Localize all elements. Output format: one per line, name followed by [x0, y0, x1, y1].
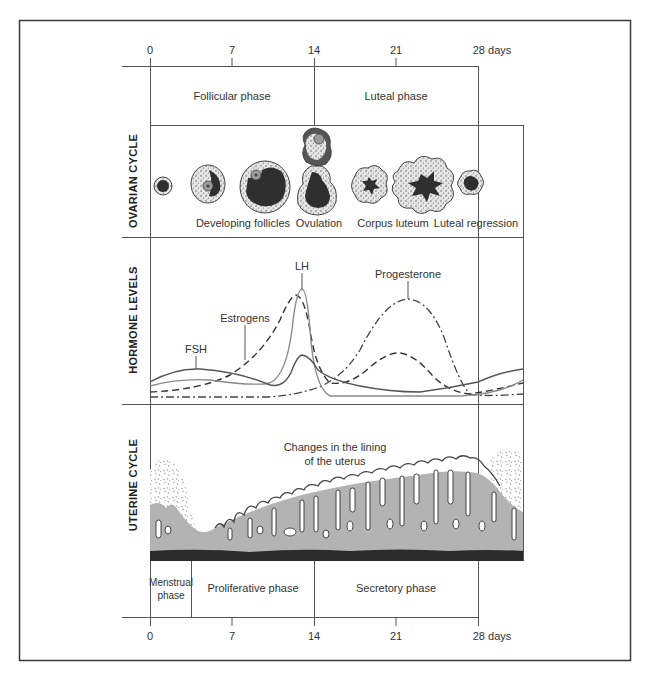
- fsh-curve: [150, 355, 523, 392]
- uterine-cycle-label: UTERINE CYCLE: [127, 439, 139, 532]
- hormone-levels-label: HORMONE LEVELS: [127, 266, 139, 374]
- bottom-tick-28: 28 days: [473, 630, 512, 642]
- developing-follicles-label: Developing follicles: [196, 217, 291, 229]
- bottom-tick-14: 14: [308, 630, 320, 642]
- secretory-phase-label: Secretory phase: [356, 582, 436, 594]
- bottom-tick-7: 7: [229, 630, 235, 642]
- developing-follicle-large-icon: [240, 161, 290, 213]
- luteal-regression-icon: [458, 170, 484, 194]
- ovarian-follicles: [154, 128, 484, 215]
- menstrual-cycle-diagram: 0 7 14 21 28 days Follicular phase Lutea…: [0, 0, 649, 686]
- estrogens-label: Estrogens: [220, 312, 270, 324]
- uterine-lining-caption-2: of the uterus: [304, 455, 366, 467]
- developing-follicle-small-icon: [191, 165, 225, 203]
- fsh-label: FSH: [185, 343, 207, 355]
- follicular-phase-label: Follicular phase: [193, 90, 270, 102]
- ovarian-cycle-label: OVARIAN CYCLE: [127, 134, 139, 228]
- menstrual-phase-label-2: phase: [157, 590, 185, 601]
- luteal-regression-label: Luteal regression: [434, 217, 518, 229]
- top-axis: 0 7 14 21 28 days: [122, 44, 512, 67]
- corpus-luteum-label: Corpus luteum: [357, 217, 429, 229]
- top-tick-7: 7: [229, 44, 235, 56]
- outer-frame: [20, 21, 631, 661]
- ovulation-label: Ovulation: [296, 217, 342, 229]
- lh-label: LH: [295, 260, 309, 272]
- menstrual-phase-label-1: Menstrual: [149, 577, 193, 588]
- bottom-tick-0: 0: [147, 630, 153, 642]
- corpus-luteum-large-icon: [392, 156, 454, 213]
- hormone-labels: FSH Estrogens LH Progesterone: [185, 260, 441, 369]
- top-tick-21: 21: [390, 44, 402, 56]
- ovulation-follicle-icon: [298, 128, 337, 215]
- primordial-follicle-icon: [154, 177, 172, 195]
- top-tick-0: 0: [147, 44, 153, 56]
- bottom-axis: 0 7 14 21 28 days: [147, 617, 512, 642]
- top-tick-14: 14: [308, 44, 320, 56]
- uterine-lining-caption-1: Changes in the lining: [284, 441, 387, 453]
- top-tick-28: 28 days: [473, 44, 512, 56]
- luteal-phase-label: Luteal phase: [365, 90, 428, 102]
- bottom-tick-21: 21: [390, 630, 402, 642]
- corpus-luteum-small-icon: [352, 165, 388, 203]
- proliferative-phase-label: Proliferative phase: [207, 582, 298, 594]
- progesterone-label: Progesterone: [375, 268, 441, 280]
